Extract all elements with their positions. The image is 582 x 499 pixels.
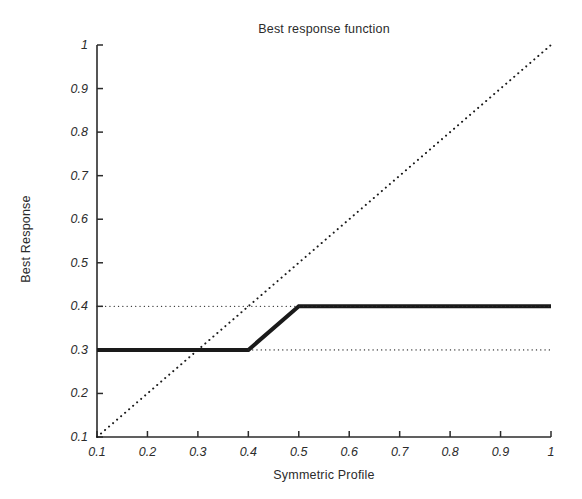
data-series-layer bbox=[97, 45, 551, 437]
plot-area bbox=[0, 0, 582, 499]
series-45-degree-identity-line bbox=[97, 45, 551, 437]
figure-canvas: Best response function Best Response Sym… bbox=[0, 0, 582, 499]
series-best-response bbox=[97, 306, 551, 350]
